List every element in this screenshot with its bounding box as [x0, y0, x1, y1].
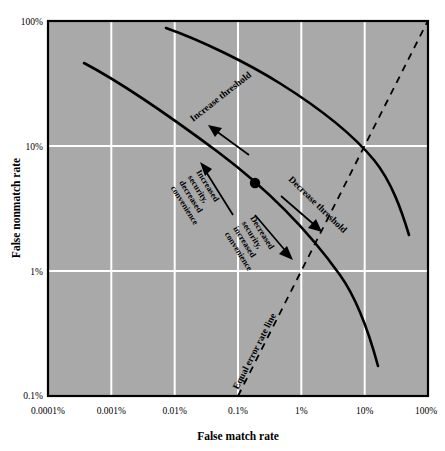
- x-axis-title: False match rate: [197, 430, 279, 442]
- x-tick-0.1: 0.1%: [228, 406, 248, 416]
- y-tick-0.1: 0.1%: [23, 391, 43, 401]
- x-tick-10: 10%: [356, 406, 374, 416]
- operating-point-marker: [250, 178, 260, 188]
- y-axis-title: False nonmatch rate: [10, 158, 22, 258]
- chart-canvas: Increase threshold Decrease threshold In…: [0, 0, 445, 451]
- det-curve-figure: Increase threshold Decrease threshold In…: [0, 0, 445, 451]
- y-tick-1: 1%: [30, 267, 43, 277]
- x-tick-100: 100%: [415, 406, 437, 416]
- y-axis-ticklabels: 100% 10% 1% 0.1%: [21, 17, 43, 401]
- y-tick-10: 10%: [26, 142, 44, 152]
- x-axis-ticklabels: 0.0001% 0.001% 0.01% 0.1% 1% 10% 100%: [31, 406, 437, 416]
- x-tick-0.01: 0.01%: [162, 406, 187, 416]
- y-tick-100: 100%: [21, 17, 43, 27]
- x-tick-1: 1%: [295, 406, 308, 416]
- x-tick-0.001: 0.001%: [97, 406, 126, 416]
- x-tick-0.0001: 0.0001%: [31, 406, 65, 416]
